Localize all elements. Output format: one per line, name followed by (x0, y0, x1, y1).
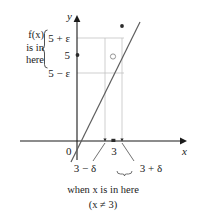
caption-line-1: when x is in here (0, 184, 206, 195)
x-tick-label-center: 3 (104, 145, 124, 157)
caption-line-2: (x ≠ 3) (0, 199, 206, 210)
x-axis-arrowhead (180, 138, 187, 145)
x-tick-label-right: 3 + δ (128, 162, 174, 174)
guide-lines (77, 38, 124, 141)
y-axis-arrowhead (74, 15, 81, 22)
x-axis-label: x (182, 146, 187, 157)
y-axis-label: y (67, 11, 72, 22)
y-tick-label-upper: 5 + ε (32, 32, 70, 44)
tick-marker-center (111, 139, 115, 142)
limit-definition-figure: y x 0 f(x) is in here 5 + ε 5 5 − ε 3 3 … (0, 0, 206, 219)
y-axis (74, 15, 81, 160)
function-value-dot (120, 24, 124, 28)
y-tick-label-center: 5 (32, 49, 70, 61)
x-tick-label-left: 3 − δ (62, 162, 108, 174)
y-axis-value-dot (76, 53, 80, 57)
x-axis (20, 138, 187, 145)
y-tick-label-lower: 5 − ε (32, 67, 70, 79)
origin-label: 0 (66, 146, 72, 157)
open-circle-marker (110, 54, 115, 59)
